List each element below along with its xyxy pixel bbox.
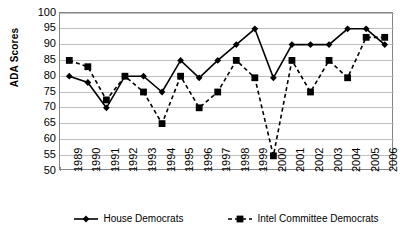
x-tick-label: 2006 (388, 132, 399, 172)
x-tick-label: 2002 (314, 132, 325, 172)
data-point (307, 89, 314, 96)
data-point (381, 34, 388, 41)
data-point (344, 74, 351, 81)
data-point (66, 73, 73, 80)
x-tick-label: 2003 (333, 132, 344, 172)
data-point (66, 57, 73, 64)
x-tick-label: 1995 (184, 132, 195, 172)
data-point (103, 97, 110, 104)
y-tick-label: 95 (30, 22, 56, 33)
data-point (289, 57, 296, 64)
data-point (84, 63, 91, 70)
y-tick-label: 80 (30, 70, 56, 81)
y-tick-label: 90 (30, 38, 56, 49)
y-tick-label: 55 (30, 149, 56, 160)
x-tick-label: 1997 (221, 132, 232, 172)
data-point (326, 57, 333, 64)
y-tick-label: 100 (30, 7, 56, 18)
x-tick-label: 1991 (110, 132, 121, 172)
x-tick-label: 1998 (240, 132, 251, 172)
x-tick-label: 1993 (147, 132, 158, 172)
data-point (214, 89, 221, 96)
x-tick-label: 1989 (73, 132, 84, 172)
legend-label: Intel Committee Democrats (257, 214, 378, 224)
x-tick-label: 1990 (91, 132, 102, 172)
x-tick-label: 1992 (128, 132, 139, 172)
x-tick-label: 1999 (258, 132, 269, 172)
legend-marker-diamond-icon (73, 213, 99, 225)
y-tick-label: 75 (30, 86, 56, 97)
legend-item-1[interactable]: Intel Committee Democrats (227, 213, 378, 225)
y-tick-label: 65 (30, 117, 56, 128)
data-point (270, 74, 277, 81)
data-point (251, 74, 258, 81)
data-point (233, 57, 240, 64)
data-point (363, 34, 370, 41)
data-point (196, 104, 203, 111)
data-point (177, 73, 184, 80)
y-axis-tick-labels: 10095908580757065605550 (26, 0, 56, 180)
legend-item-0[interactable]: House Democrats (73, 213, 183, 225)
y-tick-label: 50 (30, 165, 56, 176)
data-point (122, 73, 129, 80)
y-tick-label: 60 (30, 133, 56, 144)
x-tick-label: 1996 (203, 132, 214, 172)
y-tick-label: 85 (30, 54, 56, 65)
y-axis-title: ADA Scores (9, 13, 20, 103)
y-tick-label: 70 (30, 101, 56, 112)
chart-legend: House DemocratsIntel Committee Democrats (59, 211, 393, 227)
legend-marker-square-icon (227, 213, 253, 225)
data-point (159, 120, 166, 127)
x-tick-label: 2004 (351, 132, 362, 172)
ada-scores-line-chart: ADA Scores 10095908580757065605550 19891… (0, 0, 402, 234)
data-point (307, 41, 314, 48)
x-tick-label: 2001 (295, 132, 306, 172)
data-point (289, 41, 296, 48)
x-tick-label: 2005 (370, 132, 381, 172)
legend-label: House Democrats (103, 214, 183, 224)
x-tick-label: 1994 (166, 132, 177, 172)
x-tick-label: 2000 (277, 132, 288, 172)
x-axis-tick-labels: 1989199019911992199319941995199619971998… (59, 170, 393, 210)
data-point (140, 89, 147, 96)
